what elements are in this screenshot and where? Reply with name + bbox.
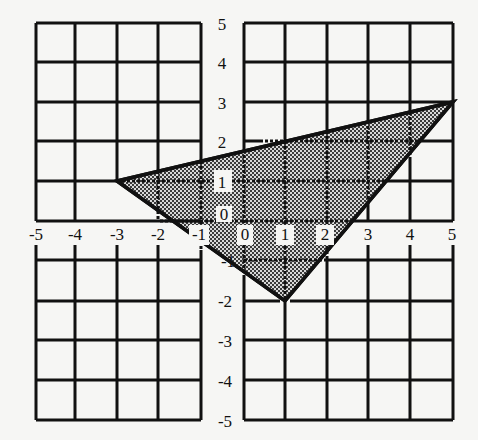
- y-tick-label: 2: [218, 133, 227, 152]
- y-tick-label: 3: [218, 94, 227, 113]
- y-tick-label: -3: [218, 332, 232, 351]
- x-tick-label: -2: [151, 225, 165, 244]
- x-axis-labels: -5 -4 -3 -2 -1 0 1 2 3 4 5: [29, 225, 456, 245]
- y-tick-label: 1: [218, 173, 227, 192]
- grid-lower-left: [36, 245, 201, 420]
- x-tick-label: 5: [448, 225, 457, 244]
- coordinate-grid-figure: 5 4 3 2 1 0 -1 -2 -3 -4 -5 -5 -4 -3 -2 -…: [0, 0, 478, 440]
- x-tick-label: 0: [241, 225, 250, 244]
- y-tick-label: -4: [218, 372, 233, 391]
- y-tick-label: 4: [218, 54, 227, 73]
- y-tick-label: 5: [218, 15, 227, 34]
- x-tick-label: -5: [29, 225, 43, 244]
- y-tick-label: -1: [221, 252, 235, 271]
- x-tick-label: -3: [110, 225, 124, 244]
- x-tick-label: 4: [406, 225, 415, 244]
- x-tick-label: -4: [68, 225, 83, 244]
- y-tick-label: -5: [218, 412, 232, 431]
- y-tick-label: -2: [218, 292, 232, 311]
- y-tick-label: 0: [220, 205, 229, 224]
- x-tick-label: 1: [281, 225, 290, 244]
- x-tick-label: -1: [192, 225, 206, 244]
- x-tick-label: 3: [364, 225, 373, 244]
- x-tick-label: 2: [321, 225, 330, 244]
